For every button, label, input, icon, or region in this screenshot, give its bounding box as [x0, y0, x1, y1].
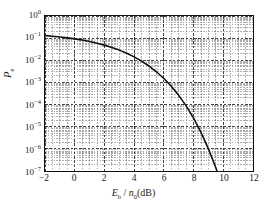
- x-axis-tick-12: 12: [249, 173, 259, 183]
- x-axis-tick-4: 4: [132, 173, 137, 183]
- x-axis-tick-0: 0: [72, 173, 77, 183]
- x-axis-tick--2: −2: [39, 173, 49, 183]
- plot-area: [44, 15, 254, 172]
- y-axis-tick--1: 10−1: [25, 32, 41, 42]
- y-axis-tick--3: 10−3: [25, 77, 41, 87]
- y-axis-tick-labels: 10010−110−210−310−410−510−610−7: [0, 15, 41, 172]
- figure-ber-plot: Pe 10010−110−210−310−410−510−610−7 −2024…: [0, 0, 267, 208]
- data-curve: [45, 16, 253, 171]
- y-axis-tick-0: 100: [29, 10, 41, 20]
- y-axis-tick--2: 10−2: [25, 55, 41, 65]
- x-axis-label: Eb / n0(dB): [0, 187, 267, 198]
- y-axis-tick--5: 10−5: [25, 122, 41, 132]
- x-axis-tick-10: 10: [219, 173, 229, 183]
- x-axis-label-unit: (dB): [137, 187, 155, 198]
- x-axis-label-separator: /: [121, 187, 129, 198]
- x-axis-tick-2: 2: [102, 173, 107, 183]
- x-axis-tick-8: 8: [192, 173, 197, 183]
- y-axis-tick--6: 10−6: [25, 145, 41, 155]
- y-axis-tick--4: 10−4: [25, 100, 41, 110]
- x-axis-tick-6: 6: [162, 173, 167, 183]
